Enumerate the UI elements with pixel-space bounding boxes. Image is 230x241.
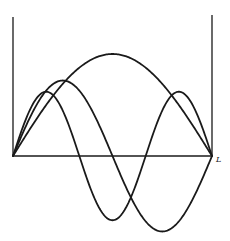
- length-label-L: L: [215, 155, 221, 164]
- wave-mode-1: [13, 54, 212, 156]
- wave-modes: [13, 54, 212, 231]
- standing-wave-diagram: L: [0, 0, 230, 241]
